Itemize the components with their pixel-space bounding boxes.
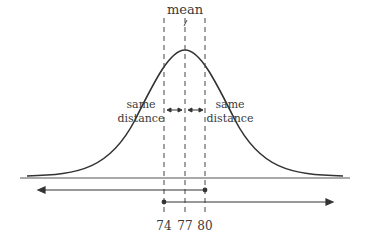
mean-label: mean — [167, 2, 204, 17]
left-label-line1: same — [126, 98, 155, 111]
normal-distribution-diagram: mean same distance same distance 74 77 8… — [0, 0, 366, 240]
left-label-line2: distance — [118, 112, 165, 125]
tick-label-74: 74 — [156, 219, 172, 233]
tick-label-77: 77 — [177, 219, 192, 233]
dashed-markers — [164, 18, 205, 212]
right-label-line2: distance — [207, 112, 254, 125]
right-arrow — [162, 199, 333, 205]
tick-label-80: 80 — [197, 219, 212, 233]
right-label-line1: same — [215, 98, 244, 111]
left-arrow — [38, 187, 207, 193]
double-arrow-icon-left — [167, 108, 182, 112]
double-arrow-icon-right — [188, 108, 203, 112]
